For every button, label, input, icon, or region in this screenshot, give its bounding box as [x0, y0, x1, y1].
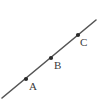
point-b-label: B — [54, 60, 61, 71]
line-through-points — [2, 20, 96, 98]
point-a-dot[interactable] — [24, 77, 28, 81]
geometry-figure: A B C — [0, 0, 100, 101]
point-c-label: C — [80, 37, 87, 48]
point-a-label: A — [29, 81, 37, 92]
line-diagram-svg — [0, 0, 100, 101]
point-b-dot[interactable] — [49, 56, 53, 60]
